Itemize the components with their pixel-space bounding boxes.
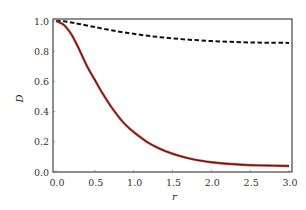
y-tick-label: 1.0 [34, 16, 49, 27]
x-tick-label: 2.0 [205, 177, 220, 188]
x-tick-label: 1.5 [166, 177, 181, 188]
y-tick-label: 0.4 [34, 106, 49, 117]
x-tick-label: 2.5 [244, 177, 259, 188]
y-axis-label: D [14, 94, 25, 103]
chart: 0.00.51.01.52.02.53.0 0.00.20.40.60.81.0… [0, 0, 306, 210]
x-tick-label: 3.0 [282, 177, 297, 188]
plot-area [56, 21, 289, 166]
x-tick-label: 1.0 [127, 177, 142, 188]
y-axis: 0.00.20.40.60.81.0 [34, 16, 55, 178]
y-tick-label: 0.8 [34, 46, 49, 57]
x-tick-label: 0.5 [88, 177, 103, 188]
y-tick-label: 0.0 [34, 167, 49, 178]
x-axis: 0.00.51.01.52.02.53.0 [49, 170, 297, 188]
y-tick-label: 0.6 [34, 76, 49, 87]
x-axis-label: r [172, 191, 178, 202]
x-tick-label: 0.0 [49, 177, 64, 188]
series-line-dashed [56, 21, 289, 43]
y-tick-label: 0.2 [34, 136, 49, 147]
plot-frame [53, 19, 292, 172]
